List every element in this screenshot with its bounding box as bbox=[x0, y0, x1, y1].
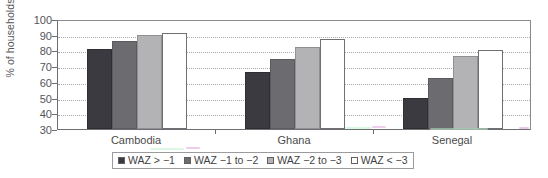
scan-artifact bbox=[430, 128, 488, 130]
bar bbox=[403, 98, 428, 129]
scan-artifact bbox=[519, 127, 529, 129]
x-axis-tick-label-ghana: Ghana bbox=[234, 134, 354, 146]
x-axis-separator-tick bbox=[373, 130, 374, 134]
x-axis-tick-label-senegal: Senegal bbox=[392, 134, 512, 146]
x-axis: CambodiaGhanaSenegal bbox=[57, 130, 531, 150]
x-axis-tick-label-cambodia: Cambodia bbox=[76, 134, 196, 146]
y-axis-tick-label: 70 bbox=[26, 62, 52, 73]
bar bbox=[478, 50, 503, 129]
y-axis-tick-label: 40 bbox=[26, 109, 52, 120]
legend-item[interactable]: WAZ > −1 bbox=[118, 155, 175, 166]
legend-item[interactable]: WAZ < −3 bbox=[351, 155, 408, 166]
y-axis-title: % of households bbox=[4, 0, 18, 93]
plot-area bbox=[57, 20, 531, 130]
y-axis-tick-label: 30 bbox=[26, 125, 52, 136]
legend-swatch-icon bbox=[118, 157, 125, 164]
legend-item[interactable]: WAZ −1 to −2 bbox=[184, 155, 258, 166]
bar-group-senegal bbox=[58, 21, 532, 129]
bar bbox=[428, 78, 453, 129]
scan-artifact bbox=[372, 126, 386, 128]
scan-artifact bbox=[150, 148, 184, 150]
legend-label: WAZ > −1 bbox=[128, 155, 175, 166]
y-axis-tick-label: 60 bbox=[26, 77, 52, 88]
legend-label: WAZ −2 to −3 bbox=[277, 155, 341, 166]
y-axis-tick-label: 100 bbox=[26, 15, 52, 26]
legend-swatch-icon bbox=[267, 157, 274, 164]
legend-swatch-icon bbox=[184, 157, 191, 164]
legend-swatch-icon bbox=[351, 157, 358, 164]
chart-legend: WAZ > −1WAZ −1 to −2WAZ −2 to −3WAZ < −3 bbox=[112, 152, 414, 169]
y-axis-tick-label: 80 bbox=[26, 46, 52, 57]
x-axis-separator-tick bbox=[215, 130, 216, 134]
y-axis-tick-labels: 30405060708090100 bbox=[26, 20, 52, 130]
legend-label: WAZ < −3 bbox=[361, 155, 408, 166]
y-axis-tick-label: 90 bbox=[26, 30, 52, 41]
scan-artifact bbox=[186, 147, 200, 149]
legend-label: WAZ −1 to −2 bbox=[194, 155, 258, 166]
scan-artifact bbox=[345, 127, 371, 129]
y-axis-tick-label: 50 bbox=[26, 93, 52, 104]
bar bbox=[453, 56, 478, 129]
legend-item[interactable]: WAZ −2 to −3 bbox=[267, 155, 341, 166]
chart-figure: % of households 30405060708090100 Cambod… bbox=[0, 0, 548, 178]
